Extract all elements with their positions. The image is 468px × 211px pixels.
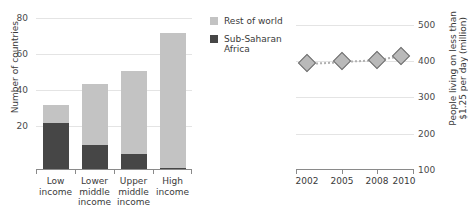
- tickmark-2005: [342, 170, 343, 174]
- left-y-tick-60: 60: [6, 50, 28, 59]
- right-x-label-2002: 2002: [296, 176, 319, 186]
- legend-swatch-icon: [210, 35, 218, 43]
- left-panel-bar-chart: Number of countries 80 60 40 20: [0, 0, 232, 211]
- right-x-label-2010: 2010: [393, 176, 416, 186]
- tickmark-left-edge: [296, 170, 297, 174]
- right-y-tick-200: 200: [418, 130, 444, 139]
- legend-label: Rest of world: [224, 16, 283, 27]
- category-line-1: High: [153, 176, 192, 187]
- legend-swatch-icon: [210, 17, 218, 25]
- data-point-2008[interactable]: [368, 51, 386, 69]
- legend-item-rest-of-world[interactable]: Rest of world: [210, 16, 296, 27]
- gridline-500: [296, 25, 414, 26]
- tickmark-right-edge: [413, 170, 414, 174]
- right-y-axis-title-line-2: $1.25 per day (million): [458, 0, 468, 138]
- tickmark-2008: [377, 170, 378, 174]
- tickmark-right-edge: [191, 170, 192, 174]
- data-point-2002[interactable]: [298, 54, 316, 72]
- legend-label: Sub-Saharan Africa: [224, 34, 296, 55]
- right-x-label-2008: 2008: [366, 176, 389, 186]
- left-x-tickmarks: [36, 170, 192, 174]
- bar-group: [36, 18, 192, 170]
- right-y-tick-500: 500: [418, 21, 444, 30]
- left-y-axis-title: Number of countries: [10, 7, 20, 127]
- category-line-1: Lower: [75, 176, 114, 187]
- right-y-axis-title-line-1: People living on less than: [448, 0, 458, 138]
- category-line-3: income: [75, 197, 114, 208]
- category-line-2: income: [153, 187, 192, 198]
- gridline-200: [296, 134, 414, 135]
- bar-upper-middle-income[interactable]: [121, 18, 147, 170]
- bar-segment-rest-of-world[interactable]: [43, 105, 69, 123]
- category-line-1: Low: [36, 176, 75, 187]
- legend: Rest of world Sub-Saharan Africa: [210, 16, 296, 62]
- bar-segment-rest-of-world[interactable]: [82, 84, 108, 145]
- tickmark-2: [114, 170, 115, 174]
- category-label-low-income: Low income: [36, 176, 75, 208]
- tickmark-3: [153, 170, 154, 174]
- right-y-tick-300: 300: [418, 93, 444, 102]
- left-plot-area: [36, 18, 192, 170]
- legend-item-sub-saharan-africa[interactable]: Sub-Saharan Africa: [210, 34, 296, 55]
- bar-segment-sub-saharan-africa[interactable]: [82, 145, 108, 170]
- left-category-labels: Low income Lower middle income Upper mid…: [36, 176, 192, 208]
- category-line-2: income: [36, 187, 75, 198]
- bar-segment-sub-saharan-africa[interactable]: [121, 154, 147, 170]
- bar-lower-middle-income[interactable]: [82, 18, 108, 170]
- right-y-tick-100: 100: [418, 166, 444, 175]
- category-line-2: middle: [75, 187, 114, 198]
- category-line-3: income: [114, 197, 153, 208]
- tickmark-1: [75, 170, 76, 174]
- right-y-axis-title: People living on less than $1.25 per day…: [448, 0, 468, 138]
- right-plot-area: [296, 18, 414, 170]
- right-x-tickmarks: [296, 170, 414, 174]
- data-point-2005[interactable]: [333, 52, 351, 70]
- category-label-upper-middle-income: Upper middle income: [114, 176, 153, 208]
- left-y-tick-80: 80: [6, 14, 28, 23]
- bar-high-income[interactable]: [160, 18, 186, 170]
- right-panel-line-chart: 500 400 300 200 100 2002 2005 2008 2010 …: [296, 0, 466, 211]
- bar-segment-rest-of-world[interactable]: [121, 71, 147, 154]
- bar-low-income[interactable]: [43, 18, 69, 170]
- category-label-high-income: High income: [153, 176, 192, 208]
- left-y-tick-40: 40: [6, 86, 28, 95]
- tickmark-left-edge: [36, 170, 37, 174]
- right-x-label-2005: 2005: [331, 176, 354, 186]
- right-y-tick-400: 400: [418, 57, 444, 66]
- data-point-2010[interactable]: [392, 47, 410, 65]
- bar-segment-sub-saharan-africa[interactable]: [43, 123, 69, 170]
- category-label-lower-middle-income: Lower middle income: [75, 176, 114, 208]
- gridline-300: [296, 97, 414, 98]
- left-y-tick-20: 20: [6, 122, 28, 131]
- bar-segment-rest-of-world[interactable]: [160, 33, 186, 168]
- category-line-2: middle: [114, 187, 153, 198]
- category-line-1: Upper: [114, 176, 153, 187]
